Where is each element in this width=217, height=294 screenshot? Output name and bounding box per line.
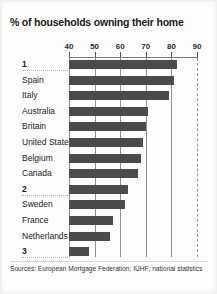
- bar-label-canada: Canada: [22, 167, 52, 180]
- bar-label-belgium: Belgium: [22, 152, 53, 165]
- bar-label-sweden: Sweden: [22, 198, 53, 211]
- x-tick-label-60: 60: [116, 42, 125, 51]
- bar-row: France: [0, 215, 217, 228]
- bar-spain: [69, 76, 174, 85]
- bar-label-france: France: [22, 214, 48, 227]
- bar-label-britain: Britain: [22, 120, 46, 133]
- bar-row: Canada: [0, 168, 217, 181]
- bar-canada: [69, 169, 138, 178]
- bar-united-states: [69, 138, 143, 147]
- bar-label-spain: Spain: [22, 74, 44, 87]
- bar-row: 1: [0, 59, 217, 72]
- bar-label-australia: Australia: [22, 105, 55, 118]
- source-note: Sources: European Mortgage Federation; I…: [10, 265, 202, 272]
- bar-row: Spain: [0, 75, 217, 88]
- bar-netherlands: [69, 232, 110, 241]
- bar-row: Australia: [0, 106, 217, 119]
- plot-area: 405060708090 1SpainItalyAustraliaBritain…: [0, 0, 217, 294]
- bar-1: [69, 60, 177, 69]
- bar-row: 3: [0, 246, 217, 259]
- bar-france: [69, 216, 113, 225]
- x-tick-label-70: 70: [141, 42, 150, 51]
- redacted-label-underline: [22, 195, 68, 196]
- x-tick-label-50: 50: [90, 42, 99, 51]
- bar-row: Belgium: [0, 153, 217, 166]
- bar-sweden: [69, 200, 125, 209]
- x-tick-label-80: 80: [167, 42, 176, 51]
- bar-italy: [69, 91, 169, 100]
- redacted-label-underline: [22, 70, 68, 71]
- bar-3: [69, 247, 89, 256]
- x-tick-label-90: 90: [193, 42, 202, 51]
- bar-belgium: [69, 154, 141, 163]
- redacted-label-underline: [22, 257, 68, 258]
- bar-britain: [69, 122, 146, 131]
- x-tick-label-40: 40: [65, 42, 74, 51]
- bar-row: 2: [0, 184, 217, 197]
- footer-divider: [10, 261, 207, 262]
- bar-label-netherlands: Netherlands: [22, 230, 68, 243]
- bar-label-italy: Italy: [22, 89, 38, 102]
- bar-label-united-states: United States: [22, 136, 73, 149]
- bar-2: [69, 185, 128, 194]
- bar-row: Italy: [0, 90, 217, 103]
- bar-australia: [69, 107, 148, 116]
- chart-figure: % of households owning their home 405060…: [0, 0, 217, 294]
- bar-row: United States: [0, 137, 217, 150]
- bar-row: Sweden: [0, 199, 217, 212]
- bar-row: Britain: [0, 121, 217, 134]
- bar-row: Netherlands: [0, 231, 217, 244]
- x-axis-line: [69, 57, 198, 58]
